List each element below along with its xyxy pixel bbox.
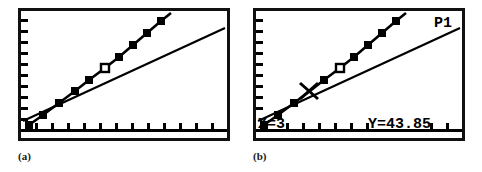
trace-x-readout: X=3 — [258, 116, 285, 133]
caption-a: (a) — [18, 150, 31, 162]
plot-label-p1: P1 — [434, 15, 452, 32]
series-p1-marker-hollow-b — [336, 64, 344, 72]
x-axis-ticks-b — [256, 123, 462, 132]
series-p1-marker-hollow-a — [101, 64, 109, 72]
screen-canvas-b: P1 X=3 Y=43.85 — [256, 11, 462, 138]
trace-y-readout: Y=43.85 — [368, 116, 431, 133]
y-axis-ticks-b — [256, 19, 263, 110]
series-p1-markers-b — [260, 17, 400, 129]
calculator-screen-a — [18, 8, 230, 141]
x-axis-ticks-a — [21, 123, 227, 132]
screen-canvas-a — [21, 11, 227, 138]
series-p1-markers-a — [25, 17, 165, 129]
figure-two-calculator-screens: (a) — [0, 0, 482, 172]
y-axis-ticks-a — [21, 19, 28, 121]
plot-svg-b: P1 X=3 Y=43.85 — [256, 11, 462, 138]
plot-svg-a — [21, 11, 227, 138]
calculator-screen-b: P1 X=3 Y=43.85 — [253, 8, 465, 141]
caption-b: (b) — [253, 150, 266, 162]
